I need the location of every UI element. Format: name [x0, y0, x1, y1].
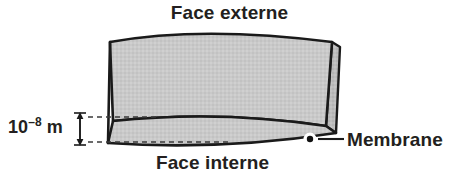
membrane-marker-dot: [307, 136, 313, 142]
slab-outer-face: [110, 34, 332, 126]
thickness-mantissa: 10: [8, 117, 28, 137]
label-membrane: Membrane: [347, 129, 443, 151]
slab-left-edge: [108, 42, 110, 143]
membrane-diagram: Face externe Face interne Membrane 10–8 …: [0, 0, 459, 178]
thickness-exponent: –8: [28, 115, 42, 129]
label-face-externe: Face externe: [0, 2, 459, 24]
label-thickness-value: 10–8 m: [8, 117, 63, 138]
thickness-unit: m: [47, 117, 63, 137]
label-face-interne: Face interne: [95, 152, 330, 174]
